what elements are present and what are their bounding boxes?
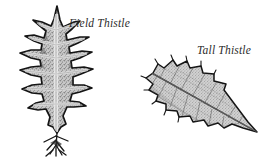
label-tall-thistle: Tall Thistle [197, 45, 251, 57]
thistle-comparison-plate: Field Thistle Tall Thistle [0, 0, 271, 165]
leaf-tall-thistle [141, 55, 257, 132]
leaf-illustrations [0, 0, 271, 165]
label-field-thistle: Field Thistle [69, 18, 130, 30]
